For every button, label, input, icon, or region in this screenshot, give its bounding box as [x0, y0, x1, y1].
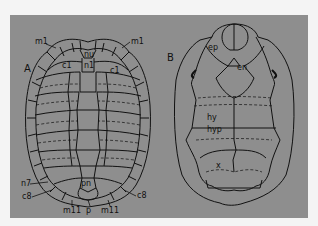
label-m1-right: m1	[131, 37, 144, 46]
label-x: x	[216, 161, 221, 170]
label-ep: ep	[208, 43, 218, 52]
label-n7: n7	[21, 179, 31, 188]
label-nu: nu	[84, 50, 94, 59]
panel-label-b: B	[167, 52, 174, 63]
label-hyp: hyp	[207, 125, 222, 134]
carapace-labels: A m1 m1 nu n1 c1 c1 n7 pn c8 c8 m11 p m1…	[21, 37, 147, 215]
label-m11-left: m11	[63, 206, 81, 215]
panel-label-a: A	[24, 63, 31, 74]
label-pn: pn	[81, 179, 91, 188]
label-n1: n1	[84, 61, 94, 70]
label-en: en	[237, 63, 247, 72]
label-hy: hy	[207, 113, 217, 122]
label-m1-left: m1	[35, 37, 48, 46]
label-c1-right: c1	[110, 66, 120, 75]
label-p: p	[86, 206, 91, 215]
label-c8-right: c8	[137, 191, 147, 200]
label-c1-left: c1	[62, 61, 72, 70]
plastron-drawing	[174, 24, 294, 205]
plastron-labels: B ep en hy hyp x	[167, 43, 247, 170]
label-c8-left: c8	[22, 192, 32, 201]
turtle-shell-diagram: A m1 m1 nu n1 c1 c1 n7 pn c8 c8 m11 p m1…	[0, 0, 318, 226]
label-m11-right: m11	[101, 206, 119, 215]
